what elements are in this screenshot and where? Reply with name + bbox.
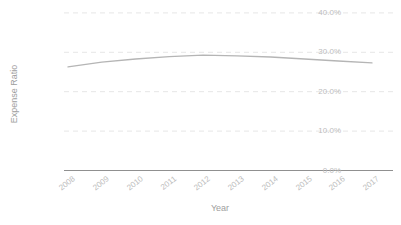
y-tick-label: 10.0% <box>318 127 341 135</box>
y-tick-label: 30.0% <box>318 48 341 56</box>
x-axis-title: Year <box>211 204 229 213</box>
expense-ratio-line-chart: 40.0%30.0%20.0%10.0%0.0% 200820092010201… <box>0 0 401 225</box>
y-tick-label: 0.0% <box>323 167 341 175</box>
y-tick-label: 40.0% <box>318 9 341 17</box>
expense-ratio-series-line <box>68 55 372 67</box>
y-tick-label: 20.0% <box>318 88 341 96</box>
y-axis-title: Expense Ratio <box>10 65 19 124</box>
plot-area <box>0 0 401 225</box>
